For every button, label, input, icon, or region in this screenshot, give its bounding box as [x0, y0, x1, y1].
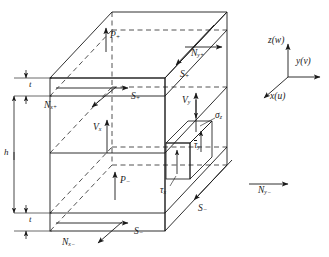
- label-n-y-plus-sub: y+: [197, 52, 204, 58]
- label-v-x: Vx: [93, 123, 101, 133]
- figure-canvas: t h t P+ P− Ny+ Ny− Nx+ Nx− S+ S+ S− S− …: [0, 0, 329, 257]
- label-s-minus-right: S−: [198, 204, 207, 214]
- label-s-minus-right-sub: −: [203, 206, 207, 213]
- label-p-plus-sub: +: [116, 33, 120, 40]
- label-s-minus-bottom-sub: −: [139, 229, 143, 236]
- dimension-label-bottom-thickness: t: [29, 215, 32, 224]
- label-tau-y-bar-base: τ: [194, 141, 197, 151]
- force-arrows: [56, 25, 288, 243]
- label-sigma-z-sub: z: [220, 114, 222, 120]
- label-s-minus-bottom: S−: [134, 227, 143, 237]
- label-v-y-sub: y: [188, 99, 191, 105]
- label-s-plus-right-sub: +: [185, 72, 189, 79]
- label-v-y: Vy: [182, 96, 190, 106]
- label-v-x-sub: x: [99, 126, 102, 132]
- dimension-label-core-height: h: [4, 148, 9, 157]
- dimension-label-top-thickness: t: [29, 80, 32, 89]
- label-n-x-minus: Nx−: [62, 238, 75, 248]
- label-p-plus: P+: [110, 31, 120, 41]
- label-p-minus-sub: −: [126, 178, 130, 185]
- dimension-lines: [14, 70, 52, 239]
- coordinate-axes: [264, 44, 320, 98]
- interior-diagonals: [50, 30, 112, 213]
- label-n-y-plus: Ny+: [191, 49, 204, 59]
- axis-label-y: y(v): [296, 57, 311, 67]
- label-tau-x-sub: x: [163, 189, 166, 195]
- label-p-minus: P−: [120, 176, 130, 186]
- label-s-plus-right: S+: [180, 70, 189, 80]
- label-n-x-minus-sub: x−: [68, 241, 75, 247]
- axis-label-x: x(u): [270, 92, 285, 102]
- label-tau-x: τx: [160, 186, 166, 196]
- label-sigma-z: σz: [215, 111, 222, 121]
- label-s-plus-top: S+: [131, 92, 140, 102]
- label-n-y-minus: Ny−: [258, 186, 271, 196]
- label-s-plus-top-sub: +: [136, 94, 140, 101]
- label-tau-y-bar: τy: [194, 141, 200, 151]
- label-n-y-minus-sub: y−: [264, 189, 271, 195]
- axis-label-x-paren: (u): [274, 91, 285, 101]
- label-n-x-plus: Nx+: [44, 101, 57, 111]
- axis-label-z-paren: (w): [272, 35, 285, 45]
- axis-label-y-paren: (v): [300, 56, 311, 66]
- label-tau-y-bar-sub: y: [197, 144, 200, 150]
- box-outline: [50, 12, 227, 231]
- label-n-x-plus-sub: x+: [50, 104, 57, 110]
- hidden-edges: [50, 12, 227, 231]
- axis-label-z: z(w): [268, 36, 284, 46]
